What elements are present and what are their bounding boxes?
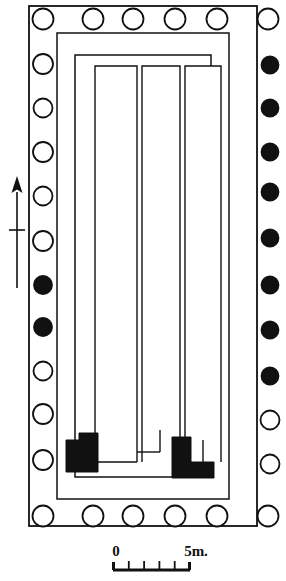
- column-marker: [262, 368, 279, 385]
- column-marker: [34, 99, 53, 118]
- column-marker: [34, 318, 52, 336]
- compartment-east: [185, 66, 221, 462]
- column-marker: [261, 411, 280, 430]
- compartment-central: [142, 66, 180, 462]
- column-marker: [262, 277, 279, 294]
- column-marker: [207, 9, 228, 30]
- column-marker: [165, 9, 186, 30]
- plan-drawing: 0 5m.: [0, 0, 286, 581]
- column-marker: [83, 9, 104, 30]
- column-marker: [33, 506, 54, 527]
- column-marker: [34, 276, 52, 294]
- column-marker: [34, 187, 53, 206]
- column-marker: [262, 144, 279, 161]
- column-marker: [33, 54, 53, 74]
- column-marker: [261, 455, 280, 474]
- north-arrow-icon: [9, 176, 25, 288]
- column-marker: [33, 404, 53, 424]
- colonnade-right-column: [261, 57, 280, 474]
- column-marker: [258, 506, 279, 527]
- scale-start-label: 0: [112, 543, 120, 559]
- column-marker: [83, 506, 104, 527]
- column-marker: [33, 231, 53, 251]
- column-marker: [123, 9, 144, 30]
- column-marker: [33, 450, 53, 470]
- temple-floor-plan-figure: 0 5m.: [0, 0, 286, 581]
- column-marker: [258, 9, 279, 30]
- scale-end-label: 5m.: [184, 543, 208, 559]
- column-marker: [207, 506, 228, 527]
- column-marker: [123, 506, 144, 527]
- column-marker: [262, 100, 279, 117]
- column-marker: [34, 362, 53, 381]
- column-marker: [33, 9, 54, 30]
- column-marker: [262, 184, 279, 201]
- compartment-west: [95, 66, 137, 462]
- column-marker: [262, 57, 279, 74]
- inner-compartments: [95, 66, 221, 462]
- column-marker: [165, 506, 186, 527]
- column-marker: [262, 322, 279, 339]
- column-marker: [33, 142, 53, 162]
- scale-bar: 0 5m.: [112, 543, 208, 570]
- column-marker: [262, 230, 279, 247]
